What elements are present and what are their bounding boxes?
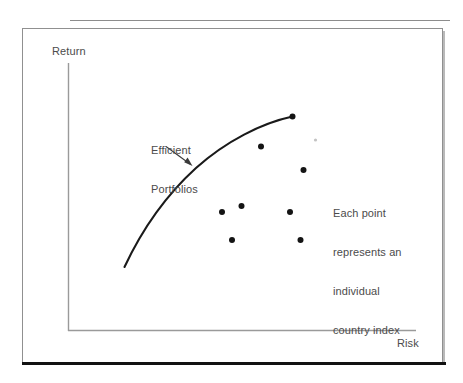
figure-canvas: Return Risk Efficient Portfolios Each po… (0, 0, 463, 383)
data-point (301, 167, 307, 173)
data-point (239, 203, 245, 209)
data-point (229, 237, 235, 243)
data-point (258, 144, 264, 150)
efficient-label-line-2: Portfolios (151, 183, 198, 196)
note-line-2: represents an (333, 246, 402, 259)
each-point-note: Each point represents an individual coun… (333, 181, 402, 363)
y-axis-label: Return (52, 45, 86, 58)
data-point (287, 209, 293, 215)
note-line-4: country index (333, 324, 402, 337)
scatter-points-group (219, 114, 317, 244)
data-point (219, 209, 225, 215)
efficient-frontier-curve (125, 117, 293, 268)
note-line-3: individual (333, 285, 402, 298)
data-point (298, 237, 304, 243)
data-point-faint (314, 138, 317, 141)
note-line-1: Each point (333, 207, 402, 220)
efficient-label-line-1: Efficient (151, 144, 198, 157)
efficient-portfolios-label: Efficient Portfolios (151, 118, 198, 222)
data-point (290, 114, 296, 120)
